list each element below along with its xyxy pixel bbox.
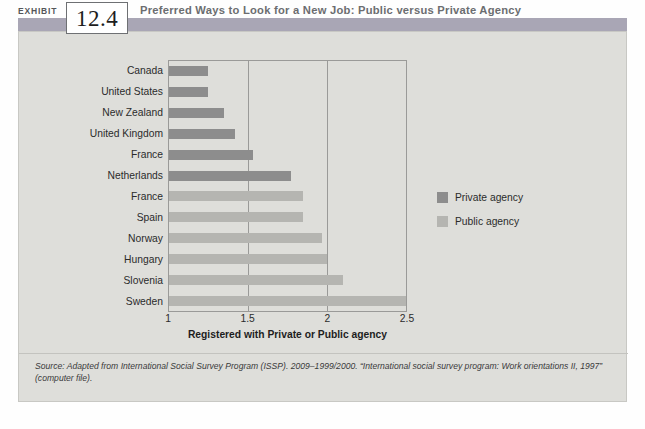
legend-item-private[interactable]: Private agency	[437, 192, 523, 203]
legend-label: Private agency	[455, 192, 523, 203]
bar-private	[169, 171, 291, 181]
bar-row	[169, 290, 406, 311]
bar-chart: CanadaUnited StatesNew ZealandUnited Kin…	[19, 32, 628, 352]
y-axis-labels: CanadaUnited StatesNew ZealandUnited Kin…	[49, 60, 168, 312]
y-axis-label: New Zealand	[49, 102, 168, 123]
bar-private	[169, 87, 208, 97]
exhibit-number-box: 12.4	[66, 2, 128, 34]
y-axis-label: Canada	[49, 60, 168, 81]
bar-row	[169, 61, 406, 82]
bar-public	[169, 254, 327, 264]
y-axis-label: Slovenia	[49, 270, 168, 291]
x-axis-tick-label: 1.5	[240, 313, 254, 324]
bar-private	[169, 129, 235, 139]
x-axis-ticks: 11.522.5	[168, 313, 407, 329]
y-axis-label: Sweden	[49, 291, 168, 312]
exhibit-title: Preferred Ways to Look for a New Job: Pu…	[140, 4, 521, 16]
y-axis-label: United States	[49, 81, 168, 102]
y-axis-label: Spain	[49, 207, 168, 228]
x-axis-tick-label: 2.5	[400, 313, 414, 324]
y-axis-label: Netherlands	[49, 165, 168, 186]
bar-row	[169, 228, 406, 249]
legend-swatch-icon	[437, 192, 448, 203]
plot-area	[168, 60, 407, 312]
bar-row	[169, 144, 406, 165]
bar-series-container	[169, 61, 406, 311]
source-note: Source: Adapted from International Socia…	[35, 360, 615, 385]
bar-public	[169, 296, 406, 306]
exhibit-label: EXHIBIT	[18, 6, 57, 16]
exhibit-number: 12.4	[76, 7, 118, 30]
bar-private	[169, 150, 253, 160]
y-axis-label: France	[49, 186, 168, 207]
bar-row	[169, 123, 406, 144]
x-axis-tick-label: 1	[165, 313, 171, 324]
bar-row	[169, 269, 406, 290]
bar-private	[169, 108, 224, 118]
y-axis-label: France	[49, 144, 168, 165]
gridline	[327, 61, 328, 311]
source-divider	[19, 353, 628, 354]
y-axis-label: Hungary	[49, 249, 168, 270]
gridline	[248, 61, 249, 311]
y-axis-label: United Kingdom	[49, 123, 168, 144]
bar-public	[169, 233, 322, 243]
x-axis-tick-label: 2	[324, 313, 330, 324]
bar-row	[169, 248, 406, 269]
chart-legend: Private agencyPublic agency	[437, 192, 523, 227]
bar-row	[169, 82, 406, 103]
exhibit-header: EXHIBIT 12.4 Preferred Ways to Look for …	[18, 4, 627, 34]
exhibit-page: EXHIBIT 12.4 Preferred Ways to Look for …	[0, 0, 645, 429]
bar-row	[169, 186, 406, 207]
bar-row	[169, 207, 406, 228]
bar-public	[169, 191, 303, 201]
bar-public	[169, 275, 343, 285]
bar-private	[169, 66, 208, 76]
legend-swatch-icon	[437, 216, 448, 227]
x-axis-title: Registered with Private or Public agency	[168, 329, 407, 340]
y-axis-label: Norway	[49, 228, 168, 249]
bar-row	[169, 103, 406, 124]
legend-item-public[interactable]: Public agency	[437, 216, 523, 227]
bar-public	[169, 212, 303, 222]
chart-panel: CanadaUnited StatesNew ZealandUnited Kin…	[18, 31, 627, 402]
bar-row	[169, 165, 406, 186]
legend-label: Public agency	[455, 216, 519, 227]
